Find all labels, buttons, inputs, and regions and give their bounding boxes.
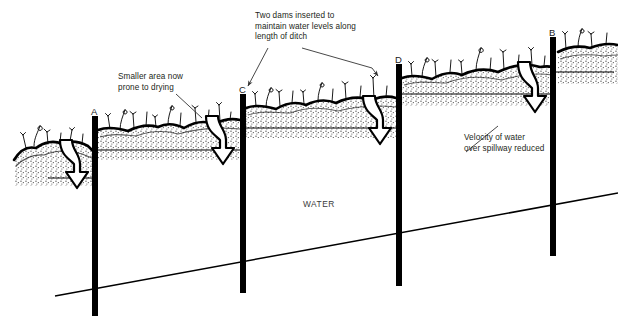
diagram-svg: [0, 0, 618, 332]
annotation-two-dams: Two dams inserted to maintain water leve…: [255, 11, 356, 43]
annotation-velocity: Velocity of water over spillway reduced: [464, 133, 544, 154]
diagram-canvas: Smaller area now prone to drying Two dam…: [0, 0, 618, 332]
post-label-b: B: [549, 27, 555, 38]
water-area-label: WATER: [303, 199, 335, 209]
leader-two-dams-right: [302, 48, 378, 76]
leader-two-dams-left: [248, 48, 268, 86]
post-b: [550, 37, 556, 256]
post-d: [396, 64, 402, 286]
post-label-a: A: [91, 106, 97, 117]
post-a: [92, 116, 98, 316]
post-label-c: C: [239, 84, 246, 95]
bank-after-b: [558, 44, 618, 84]
post-c: [240, 94, 246, 293]
ditch-bottom-line: [55, 193, 618, 296]
post-label-d: D: [395, 54, 402, 65]
annotation-smaller-area: Smaller area now prone to drying: [118, 72, 183, 93]
